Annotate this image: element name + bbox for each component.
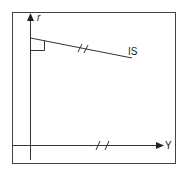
y-axis-label: Y — [165, 140, 172, 151]
y-axis-arrow-icon — [156, 142, 164, 149]
r-axis-arrow-icon — [27, 13, 34, 21]
right-angle-marker — [31, 41, 45, 51]
r-axis-label: r — [37, 12, 41, 23]
diagram-frame — [13, 13, 176, 164]
is-curve — [31, 38, 133, 58]
is-curve-label: IS — [128, 46, 138, 57]
is-curve-diagram: r Y IS — [0, 0, 184, 172]
